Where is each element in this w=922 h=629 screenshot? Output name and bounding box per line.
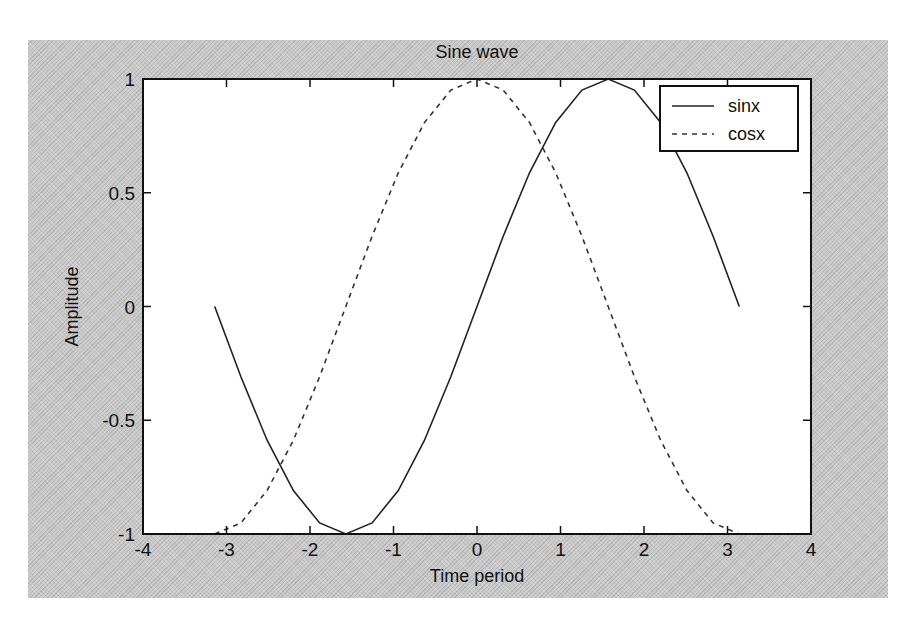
x-tick-label: -1 (385, 539, 402, 560)
x-tick-label: 4 (806, 539, 817, 560)
x-axis-label: Time period (430, 566, 524, 586)
x-tick-label: 1 (555, 539, 566, 560)
y-axis-label: Amplitude (62, 266, 82, 346)
x-tick-label: 0 (472, 539, 483, 560)
y-tick-label: -1 (118, 524, 135, 545)
y-tick-label: -0.5 (102, 410, 135, 431)
x-tick-label: 3 (722, 539, 733, 560)
chart: -4-3-2-101234 -1-0.500.51 Sine wave Time… (28, 40, 888, 598)
legend: sinxcosx (660, 86, 798, 151)
x-tick-label: -2 (302, 539, 319, 560)
y-tick-label: 0.5 (109, 183, 135, 204)
cutoff-caption-fragment (420, 612, 840, 629)
sinx-legend-label: sinx (728, 96, 760, 116)
x-tick-label: -3 (218, 539, 235, 560)
y-tick-label: 0 (124, 297, 135, 318)
x-tick-label: -4 (135, 539, 152, 560)
figure-background: -4-3-2-101234 -1-0.500.51 Sine wave Time… (28, 40, 888, 598)
cosx-legend-label: cosx (728, 124, 765, 144)
chart-title: Sine wave (435, 42, 518, 62)
y-tick-label: 1 (124, 69, 135, 90)
x-tick-label: 2 (639, 539, 650, 560)
